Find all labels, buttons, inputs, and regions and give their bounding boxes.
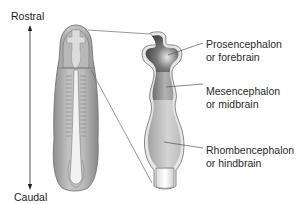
- prosencephalon-term: Prosencephalon: [206, 38, 282, 51]
- brain-vesicles: [142, 32, 184, 189]
- hindbrain-term: or hindbrain: [206, 157, 294, 170]
- forebrain-term: or forebrain: [206, 51, 282, 64]
- mesencephalon-label: Mesencephalon or midbrain: [206, 85, 280, 111]
- embryo-dorsal-view: [53, 25, 98, 191]
- rhombencephalon-term: Rhombencephalon: [206, 144, 294, 157]
- mesencephalon-term: Mesencephalon: [206, 85, 280, 98]
- prosencephalon-label: Prosencephalon or forebrain: [206, 38, 282, 64]
- rhombencephalon-label: Rhombencephalon or hindbrain: [206, 144, 294, 170]
- midbrain-term: or midbrain: [206, 98, 280, 111]
- rostral-label: Rostral: [11, 10, 44, 22]
- caudal-label: Caudal: [14, 191, 47, 203]
- rostral-caudal-arrow: [28, 25, 32, 190]
